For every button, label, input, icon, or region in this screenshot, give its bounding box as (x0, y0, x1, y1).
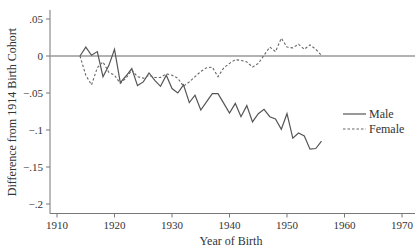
x-tick-label: 1920 (104, 219, 127, 231)
y-axis-ticks: .050−.05−.1−.15−.2 (23, 13, 50, 210)
y-tick-label: −.05 (23, 87, 43, 99)
y-tick-label: −.15 (23, 161, 43, 173)
x-axis-ticks: 1910192019301940195019601970 (46, 214, 414, 232)
male-series-line (80, 47, 322, 149)
y-tick-label: −.2 (29, 198, 43, 210)
x-tick-label: 1970 (391, 219, 414, 231)
y-tick-label: −.1 (29, 124, 43, 136)
y-tick-label: .05 (29, 13, 43, 25)
y-tick-label: 0 (38, 50, 44, 62)
x-tick-label: 1950 (276, 219, 299, 231)
x-tick-label: 1940 (219, 219, 242, 231)
legend-female-label: Female (369, 122, 404, 136)
line-chart: .050−.05−.1−.15−.2 191019201930194019501… (0, 0, 419, 251)
x-tick-label: 1930 (161, 219, 184, 231)
legend-male-label: Male (369, 107, 394, 121)
x-tick-label: 1960 (334, 219, 357, 231)
legend: Male Female (343, 107, 404, 136)
y-axis-title: Difference from 1914 Birth Cohort (5, 27, 19, 196)
x-axis-title: Year of Birth (200, 234, 263, 248)
x-tick-label: 1910 (46, 219, 69, 231)
